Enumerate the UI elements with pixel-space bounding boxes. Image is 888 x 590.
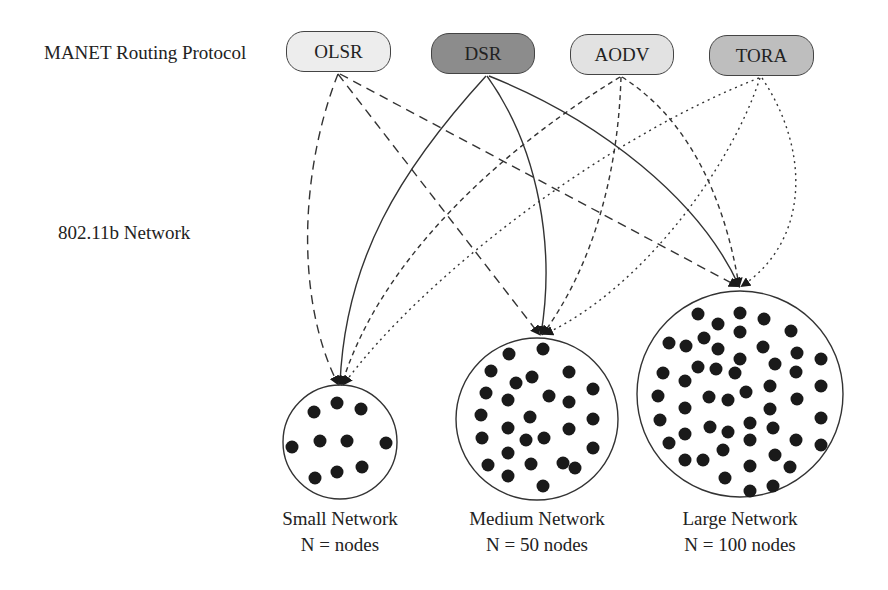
protocol-tora: TORA xyxy=(709,35,814,76)
protocol-olsr: OLSR xyxy=(286,31,391,72)
protocol-dsr-label: DSR xyxy=(465,43,502,65)
edge-aodv-small xyxy=(342,77,620,384)
protocol-aodv-label: AODV xyxy=(595,44,650,66)
medium-network xyxy=(456,338,618,500)
protocol-olsr-label: OLSR xyxy=(314,41,363,63)
edge-tora-small xyxy=(344,78,759,384)
diagram-canvas xyxy=(0,0,888,590)
large-network-title: Large Network xyxy=(640,506,840,532)
large-network xyxy=(637,291,843,498)
edge-dsr-small xyxy=(340,76,486,384)
edge-aodv-medium xyxy=(543,77,621,334)
edge-olsr-large xyxy=(340,74,737,286)
protocol-aodv: AODV xyxy=(570,34,674,75)
edge-olsr-small xyxy=(308,74,338,384)
edge-tora-medium xyxy=(545,78,760,334)
medium-network-nodes xyxy=(475,343,600,493)
large-network-nodes-label: N = 100 nodes xyxy=(640,532,840,558)
small-network-nodes xyxy=(286,397,393,485)
protocol-dsr: DSR xyxy=(431,33,535,74)
edge-dsr-large xyxy=(489,76,739,286)
small-network xyxy=(283,385,397,499)
large-network-nodes xyxy=(652,307,828,498)
medium-network-nodes-label: N = 50 nodes xyxy=(437,532,637,558)
small-network-caption: Small Network N = nodes xyxy=(240,506,440,558)
edge-tora-large xyxy=(742,78,796,286)
edge-dsr-medium xyxy=(487,76,546,334)
small-network-nodes-label: N = nodes xyxy=(240,532,440,558)
small-network-title: Small Network xyxy=(240,506,440,532)
medium-network-caption: Medium Network N = 50 nodes xyxy=(437,506,637,558)
network-row-label: 802.11b Network xyxy=(58,222,190,244)
tora-edges xyxy=(344,78,796,384)
medium-network-title: Medium Network xyxy=(437,506,637,532)
large-network-caption: Large Network N = 100 nodes xyxy=(640,506,840,558)
protocol-row-label: MANET Routing Protocol xyxy=(44,42,246,64)
protocol-tora-label: TORA xyxy=(736,45,787,67)
